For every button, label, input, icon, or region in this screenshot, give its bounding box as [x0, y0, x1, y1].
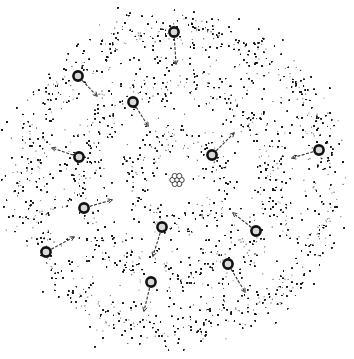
motion-arrow-icon — [153, 233, 160, 256]
electron — [223, 259, 245, 292]
motion-arrow-icon — [231, 269, 245, 292]
electron-dot — [79, 203, 88, 212]
motion-arrow-icon — [233, 213, 251, 227]
electron-dot — [157, 222, 166, 231]
electron — [169, 27, 178, 64]
electron — [292, 145, 324, 158]
electron — [79, 200, 112, 213]
electron — [128, 97, 148, 126]
electron-dot — [314, 145, 323, 154]
electron — [153, 222, 167, 256]
electron-dot — [207, 150, 216, 159]
electron-dot — [74, 152, 83, 161]
motion-arrow-icon — [216, 133, 234, 151]
nucleon — [177, 173, 182, 178]
electron-dot — [73, 71, 82, 80]
motion-arrow-icon — [82, 80, 97, 96]
motion-arrow-icon — [136, 107, 148, 126]
motion-arrow-icon — [174, 38, 176, 64]
electron — [144, 277, 156, 311]
motion-arrow-icon — [90, 200, 112, 206]
electron-dot — [128, 97, 137, 106]
electron-dot — [146, 277, 155, 286]
motion-arrow-icon — [144, 288, 150, 311]
atom-diagram: Atom with electron shells (stippled orbi… — [0, 0, 354, 359]
nucleus — [170, 173, 184, 186]
electron-dot — [41, 247, 50, 256]
electron — [233, 213, 261, 236]
electron — [52, 148, 84, 162]
motion-arrow-icon — [292, 152, 313, 158]
electron — [73, 71, 97, 96]
electron — [41, 237, 74, 257]
electron-dot — [169, 27, 178, 36]
electron-dot — [223, 259, 232, 268]
motion-arrow-icon — [51, 237, 74, 249]
electron-dot — [251, 226, 260, 235]
motion-arrow-icon — [52, 148, 73, 155]
faint-arrow-icon — [192, 223, 193, 232]
electrons-layer — [0, 0, 354, 359]
electron — [207, 133, 234, 160]
